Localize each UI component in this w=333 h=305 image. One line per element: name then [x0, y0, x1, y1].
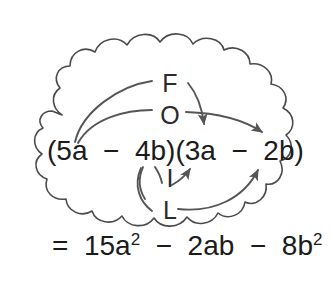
cloud-border — [35, 34, 293, 226]
diagram-canvas — [0, 0, 333, 305]
foil-diagram-figure: F O I L (5a − 4b)(3a − 2b) = 15a2 − 2ab … — [0, 0, 333, 305]
